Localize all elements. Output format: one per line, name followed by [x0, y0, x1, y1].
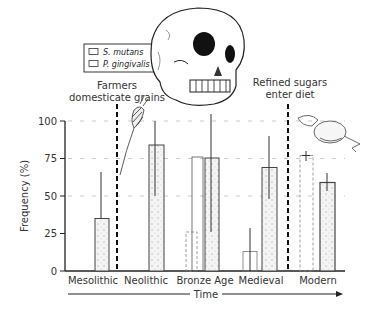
y-tick-100: 100	[38, 116, 57, 127]
x-tick-medieval: Medieval	[239, 275, 284, 286]
candy-icon	[298, 115, 360, 152]
arrow-head-icon	[336, 291, 343, 297]
y-tick-75: 75	[44, 153, 57, 164]
bar-group-medieval	[243, 136, 277, 271]
sugar-annotation-line2: enter diet	[265, 89, 314, 100]
y-tick-25: 25	[44, 228, 57, 239]
legend: S. mutans P. gingivalis	[84, 44, 156, 72]
grains-annotation-line2: domesticate grains	[69, 92, 165, 103]
bar-group-modern	[300, 151, 335, 271]
x-tick-labels: Mesolithic Neolithic Bronze Age Medieval…	[68, 275, 337, 286]
legend-label-s-mutans: S. mutans	[103, 48, 143, 57]
chart-canvas: 100 75 50 25 0 Frequency (%)	[0, 0, 380, 311]
bar-group-mesolithic	[95, 172, 109, 271]
y-axis: 100 75 50 25 0 Frequency (%)	[19, 116, 65, 277]
x-axis-label: Time	[193, 289, 218, 300]
y-tick-0: 0	[51, 266, 57, 277]
wheat-icon	[120, 96, 148, 175]
y-axis-label: Frequency (%)	[19, 160, 30, 232]
x-tick-bronze-age: Bronze Age	[176, 275, 233, 286]
legend-label-p-gingivalis: P. gingivalis	[103, 60, 150, 69]
sugar-annotation-line1: Refined sugars	[253, 77, 327, 88]
grains-annotation-line1: Farmers	[97, 80, 137, 91]
x-tick-modern: Modern	[299, 275, 337, 286]
time-arrow: Time	[68, 289, 343, 300]
y-tick-50: 50	[44, 191, 57, 202]
x-tick-mesolithic: Mesolithic	[68, 275, 118, 286]
skull-icon	[151, 8, 244, 105]
bar-group-bronze-age	[186, 114, 219, 271]
bar-group-neolithic	[149, 121, 164, 271]
x-tick-neolithic: Neolithic	[124, 275, 168, 286]
